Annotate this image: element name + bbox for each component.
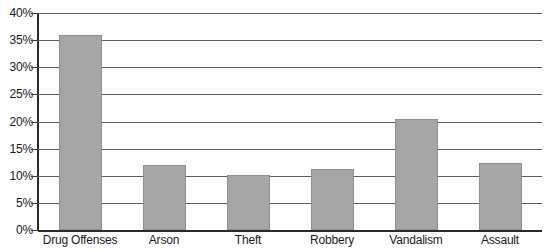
plot-area <box>38 13 542 230</box>
y-tick-label: 10% <box>10 169 33 183</box>
y-tick-mark <box>31 176 38 177</box>
bars-layer <box>38 13 542 230</box>
bar <box>143 165 186 230</box>
bar-chart: 0%5%10%15%20%25%30%35%40% Drug OffensesA… <box>0 0 547 252</box>
bar <box>311 169 354 230</box>
y-tick-mark <box>31 149 38 150</box>
y-tick-mark <box>31 40 38 41</box>
clipped-title-remnant <box>0 0 547 5</box>
x-axis: Drug OffensesArsonTheftRobberyVandalismA… <box>38 233 542 252</box>
x-tick-label: Robbery <box>290 233 374 247</box>
y-tick-mark <box>31 203 38 204</box>
y-tick-label: 25% <box>10 87 33 101</box>
x-tick-label: Theft <box>206 233 290 247</box>
bar <box>227 175 270 230</box>
y-tick-mark <box>31 230 38 231</box>
y-tick-label: 40% <box>10 6 33 20</box>
x-tick-label: Drug Offenses <box>38 233 122 247</box>
y-tick-label: 15% <box>10 142 33 156</box>
x-tick-label: Vandalism <box>374 233 458 247</box>
y-tick-mark <box>31 67 38 68</box>
y-axis: 0%5%10%15%20%25%30%35%40% <box>0 0 36 252</box>
axis-baseline <box>38 230 542 232</box>
y-tick-label: 35% <box>10 33 33 47</box>
y-tick-mark <box>31 13 38 14</box>
bar <box>479 163 522 230</box>
y-tick-mark <box>31 94 38 95</box>
bar <box>59 35 102 230</box>
x-tick-label: Assault <box>458 233 542 247</box>
bar <box>395 119 438 230</box>
y-tick-label: 30% <box>10 60 33 74</box>
x-tick-label: Arson <box>122 233 206 247</box>
y-tick-mark <box>31 122 38 123</box>
y-tick-label: 20% <box>10 115 33 129</box>
